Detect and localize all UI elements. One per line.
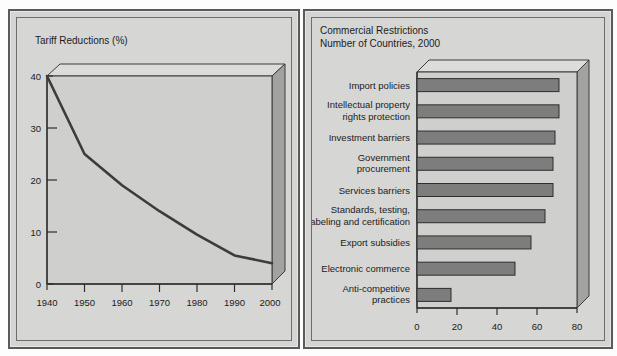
- y-tick-label-0: 0: [36, 279, 41, 290]
- bar: [417, 236, 531, 249]
- bar-category-label: Intellectual propertyrights protection: [327, 99, 410, 122]
- bar-category-label: Services barriers: [339, 185, 411, 196]
- left-chart-title: Tariff Reductions (%): [35, 35, 128, 46]
- x-tick-label-1980: 1980: [186, 297, 207, 308]
- x-tick-label-1970: 1970: [149, 297, 170, 308]
- x-tick-label-1960: 1960: [111, 297, 132, 308]
- bar: [417, 262, 515, 275]
- bar-x-tick-label-40: 40: [492, 321, 503, 332]
- bar-category-label: Standards, testing,labeling and certific…: [312, 204, 410, 227]
- bar-x-tick-label-20: 20: [452, 321, 463, 332]
- x-tick-label-1990: 1990: [224, 297, 245, 308]
- panel-commercial-restrictions: Commercial Restrictions Number of Countr…: [303, 9, 613, 349]
- bar-category-label: Import policies: [349, 80, 410, 91]
- bar-plot-top-face: [417, 60, 589, 72]
- y-tick-label-30: 30: [30, 123, 41, 134]
- commercial-restrictions-chart: Commercial Restrictions Number of Countr…: [312, 18, 604, 340]
- bar-x-tick-label-0: 0: [414, 321, 419, 332]
- bar: [417, 131, 555, 144]
- category-labels-group: Import policiesIntellectual propertyrigh…: [312, 80, 410, 306]
- left-panel-inner-frame: Tariff Reductions (%): [16, 17, 292, 341]
- bar-category-label: Investment barriers: [329, 132, 411, 143]
- bar: [417, 157, 553, 170]
- right-panel-inner-frame: Commercial Restrictions Number of Countr…: [311, 17, 605, 341]
- right-chart-title-line2: Number of Countries, 2000: [320, 38, 441, 49]
- bar: [417, 105, 559, 118]
- y-tick-label-10: 10: [30, 227, 41, 238]
- bar-category-label: Anti-competitivepractices: [342, 283, 410, 306]
- plot-back-wall: [47, 76, 272, 284]
- bar-x-tick-label-60: 60: [532, 321, 543, 332]
- bar: [417, 210, 545, 223]
- bar-category-label: Export subsidies: [340, 237, 410, 248]
- figure-root: Tariff Reductions (%): [0, 0, 617, 356]
- panel-tariff-reductions: Tariff Reductions (%): [8, 9, 300, 349]
- bar-x-tick-label-80: 80: [572, 321, 583, 332]
- bar-category-label: Electronic commerce: [321, 263, 410, 274]
- x-tick-label-2000: 2000: [259, 297, 280, 308]
- y-tick-label-20: 20: [30, 175, 41, 186]
- plot-top-face: [47, 64, 285, 76]
- plot-side-face: [272, 64, 285, 284]
- bar: [417, 79, 559, 92]
- bar-category-label: Governmentprocurement: [357, 152, 411, 175]
- x-axis-ticks: [47, 284, 272, 292]
- bar: [417, 288, 451, 301]
- right-chart-title-line1: Commercial Restrictions: [320, 25, 428, 36]
- bar: [417, 184, 553, 197]
- x-tick-label-1940: 1940: [36, 297, 57, 308]
- bar-x-axis-ticks: [417, 308, 577, 315]
- tariff-reductions-chart: Tariff Reductions (%): [17, 18, 291, 340]
- x-tick-label-1950: 1950: [74, 297, 95, 308]
- y-tick-label-40: 40: [30, 71, 41, 82]
- bar-plot-side-face: [577, 60, 589, 308]
